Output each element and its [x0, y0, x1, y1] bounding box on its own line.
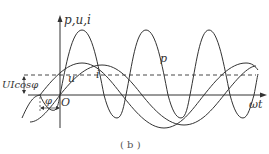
x-axis-label: ωt — [249, 98, 263, 111]
y-axis-arrow-icon — [58, 15, 63, 22]
phase-label: φ — [45, 95, 52, 106]
curve-label-i: i — [96, 68, 100, 81]
x-axis-arrow-icon — [260, 93, 267, 98]
figure-caption: ( b ) — [120, 139, 141, 150]
phase-arrow-left-icon — [40, 106, 44, 110]
phase-arrow-right-icon — [56, 106, 60, 110]
y-axis-label: p,u,i — [64, 13, 91, 27]
dimension-arrow-down-icon — [22, 90, 26, 94]
curve-label-p: p — [160, 52, 167, 65]
power-waveform-diagram: p,u,i u i p UIcosφ O φ ωt ( b ) — [0, 0, 269, 154]
average-power-label: UIcosφ — [2, 79, 38, 90]
curve-label-u: u — [68, 72, 75, 85]
origin-label: O — [61, 96, 70, 109]
